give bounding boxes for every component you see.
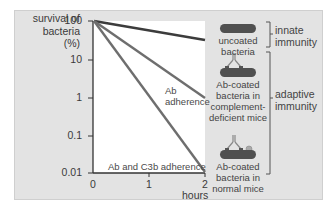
legend-uncoated-line2: bacteria xyxy=(207,46,269,57)
legend-deficient-line3: complement- xyxy=(207,101,269,112)
adaptive-immunity-label: adaptive immunity xyxy=(275,88,317,112)
legend-normal-line2: bacteria in xyxy=(207,172,269,183)
uncoated-bacterium-icon xyxy=(220,24,256,33)
innate-line2: immunity xyxy=(275,36,317,48)
legend-normal-line3: normal mice xyxy=(207,183,269,194)
legend-uncoated: uncoated bacteria xyxy=(207,35,269,57)
innate-immunity-label: innate immunity xyxy=(275,24,317,48)
legend-deficient-line4: deficient mice xyxy=(207,112,269,123)
legend-deficient-line1: Ab-coated xyxy=(207,79,269,90)
legend-normal: Ab-coated bacteria in normal mice xyxy=(207,161,269,194)
legend-deficient: Ab-coated bacteria in complement- defici… xyxy=(207,79,269,123)
adaptive-line1: adaptive xyxy=(275,88,317,100)
antibody-c3b-coated-bacterium-icon xyxy=(220,135,256,159)
legend-uncoated-line1: uncoated xyxy=(207,35,269,46)
legend-deficient-line2: bacteria in xyxy=(207,90,269,101)
innate-line1: innate xyxy=(275,24,317,36)
legend-normal-line1: Ab-coated xyxy=(207,161,269,172)
adaptive-line2: immunity xyxy=(275,100,317,112)
